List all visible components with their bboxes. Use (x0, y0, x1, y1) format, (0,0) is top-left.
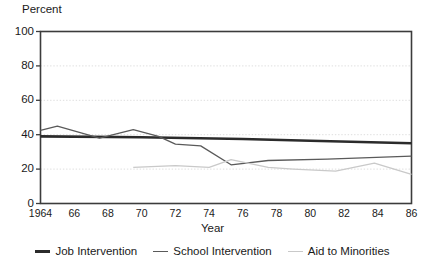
y-tick-label: 60 (2, 94, 34, 105)
y-tick-label: 40 (2, 129, 34, 140)
legend-line-swatch-icon (153, 251, 168, 252)
x-tick-label: 72 (170, 207, 182, 219)
legend-item[interactable]: School Intervention (153, 245, 271, 257)
legend-label: Aid to Minorities (308, 245, 390, 257)
x-tick-label: 84 (372, 207, 384, 219)
series-line-1 (41, 126, 412, 165)
x-tick-label: 76 (237, 207, 249, 219)
y-tick-label: 20 (2, 163, 34, 174)
x-tick-label: 66 (68, 207, 80, 219)
x-tick-label: 1964 (29, 207, 52, 219)
legend-label: School Intervention (173, 245, 271, 257)
x-tick-label: 70 (136, 207, 148, 219)
x-tick-label: 80 (304, 207, 316, 219)
x-axis-title: Year (0, 222, 425, 234)
x-tick-label: 78 (271, 207, 283, 219)
x-tick-label: 74 (203, 207, 215, 219)
plot-frame (41, 32, 412, 204)
x-tick-label: 82 (338, 207, 350, 219)
legend-item[interactable]: Job Intervention (35, 245, 137, 257)
legend-label: Job Intervention (55, 245, 137, 257)
x-tick-label: 86 (406, 207, 418, 219)
x-tick-label: 68 (102, 207, 114, 219)
y-tick-label: 100 (2, 26, 34, 37)
chart-legend: Job InterventionSchool InterventionAid t… (0, 245, 425, 257)
legend-line-swatch-icon (288, 251, 303, 252)
legend-item[interactable]: Aid to Minorities (288, 245, 390, 257)
legend-line-swatch-icon (35, 250, 50, 253)
y-tick-label: 80 (2, 60, 34, 71)
series-line-2 (133, 160, 411, 175)
chart-container: Percent 020406080100 1964666870727476788… (0, 0, 425, 267)
